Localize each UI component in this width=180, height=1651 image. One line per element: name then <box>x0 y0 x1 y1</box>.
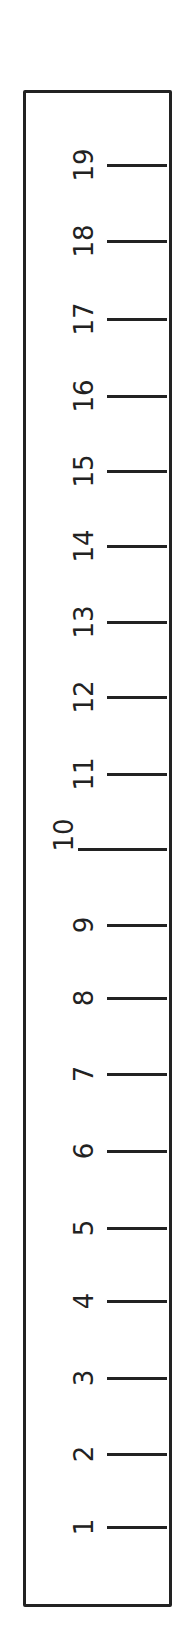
tick-label-9: 9 <box>71 905 97 945</box>
tick-mark-8 <box>107 997 167 1000</box>
tick-mark-15 <box>107 470 167 473</box>
tick-mark-2 <box>107 1453 167 1456</box>
tick-label-17: 17 <box>71 299 97 339</box>
tick-label-16: 16 <box>71 376 97 416</box>
tick-label-3: 3 <box>71 1358 97 1398</box>
tick-mark-13 <box>107 621 167 624</box>
tick-mark-19 <box>107 164 167 167</box>
tick-label-13: 13 <box>71 602 97 642</box>
tick-mark-4 <box>107 1300 167 1303</box>
tick-label-7: 7 <box>71 1054 97 1094</box>
tick-mark-16 <box>107 395 167 398</box>
tick-label-5: 5 <box>71 1208 97 1248</box>
tick-mark-12 <box>107 696 167 699</box>
tick-label-4: 4 <box>71 1281 97 1321</box>
tick-mark-14 <box>107 545 167 548</box>
tick-label-8: 8 <box>71 978 97 1018</box>
tick-mark-5 <box>107 1227 167 1230</box>
tick-label-12: 12 <box>71 677 97 717</box>
tick-label-18: 18 <box>71 221 97 261</box>
tick-mark-11 <box>107 773 167 776</box>
tick-mark-10 <box>78 848 167 851</box>
tick-mark-7 <box>107 1073 167 1076</box>
tick-mark-3 <box>107 1377 167 1380</box>
tick-label-1: 1 <box>71 1507 97 1547</box>
tick-label-6: 6 <box>71 1131 97 1171</box>
tick-label-19: 19 <box>71 145 97 185</box>
tick-label-11: 11 <box>71 754 97 794</box>
tick-label-2: 2 <box>71 1434 97 1474</box>
tick-label-15: 15 <box>71 451 97 491</box>
tick-mark-17 <box>107 318 167 321</box>
tick-label-10: 10 <box>51 815 77 855</box>
tick-mark-18 <box>107 240 167 243</box>
tick-label-14: 14 <box>71 526 97 566</box>
tick-mark-9 <box>107 924 167 927</box>
tick-mark-1 <box>107 1526 167 1529</box>
tick-mark-6 <box>107 1150 167 1153</box>
